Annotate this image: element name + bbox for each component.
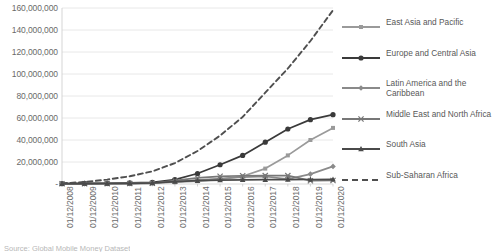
x-axis-tick: 01/12/2009	[88, 186, 98, 228]
legend-swatch	[340, 21, 382, 33]
legend-swatch	[340, 174, 382, 186]
legend-item-5[interactable]: Sub-Saharan Africa	[340, 175, 480, 189]
data-point-marker	[358, 85, 364, 91]
data-point-marker	[285, 126, 290, 131]
data-point-marker	[331, 126, 335, 130]
legend-label: South Asia	[386, 139, 496, 149]
legend-swatch	[340, 82, 382, 94]
legend-item-4[interactable]: South Asia	[340, 144, 480, 158]
x-axis-tick: 01/12/2008	[65, 186, 75, 228]
x-axis-tick: 01/12/2010	[110, 186, 120, 228]
data-point-marker	[286, 153, 290, 157]
series-5	[62, 10, 333, 183]
data-point-marker	[308, 171, 314, 177]
legend-swatch	[340, 52, 382, 64]
legend-swatch	[340, 113, 382, 125]
data-point-marker	[263, 140, 268, 145]
legend-item-0[interactable]: East Asia and Pacific	[340, 22, 480, 36]
legend-item-1[interactable]: Europe and Central Asia	[340, 53, 480, 67]
legend-item-3[interactable]: Middle East and North Africa	[340, 114, 480, 128]
series-line	[62, 10, 333, 183]
legend-label: East Asia and Pacific	[386, 17, 496, 27]
x-axis-tick: 01/12/2016	[246, 186, 256, 228]
legend-label: Latin America and the Caribbean	[386, 78, 496, 98]
x-axis-tick: 01/12/2017	[268, 186, 278, 228]
data-point-marker	[263, 167, 267, 171]
data-point-marker	[358, 55, 363, 60]
legend-item-2[interactable]: Latin America and the Caribbean	[340, 83, 480, 97]
data-point-marker	[217, 162, 222, 167]
data-point-marker	[240, 153, 245, 158]
data-point-marker	[359, 25, 363, 29]
legend-label: Europe and Central Asia	[386, 48, 496, 58]
x-axis-tick: 01/12/2015	[223, 186, 233, 228]
legend-swatch	[340, 143, 382, 155]
series-1	[59, 112, 335, 186]
x-axis-tick: 01/12/2012	[156, 186, 166, 228]
legend-label: Sub-Saharan Africa	[386, 170, 496, 180]
x-axis-tick: 01/12/2013	[178, 186, 188, 228]
x-axis-tick: 01/12/2020	[336, 186, 346, 228]
legend-label: Middle East and North Africa	[386, 109, 496, 119]
data-point-marker	[330, 164, 336, 170]
x-axis-tick: 01/12/2014	[201, 186, 211, 228]
x-axis-tick: 01/12/2011	[133, 187, 143, 228]
data-point-marker	[308, 138, 312, 142]
x-axis-tick: 01/12/2018	[291, 186, 301, 228]
source-note: Source: Global Mobile Money Dataset	[4, 244, 130, 252]
x-axis-tick: 01/12/2019	[314, 186, 324, 228]
data-point-marker	[308, 117, 313, 122]
data-point-marker	[330, 112, 335, 117]
